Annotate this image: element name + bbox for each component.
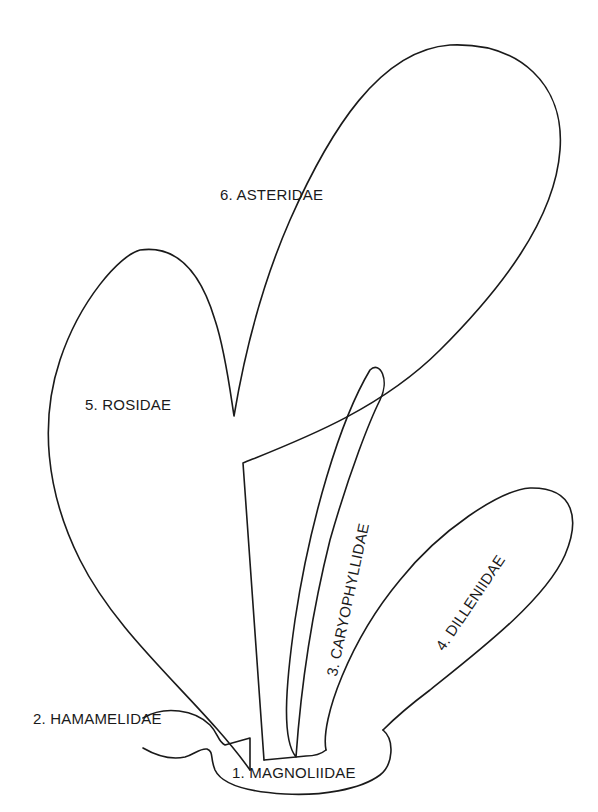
label-dilleniidae: 4. DILLENIIDAE (432, 552, 508, 654)
label-asteridae: 6. ASTERIDAE (220, 186, 323, 203)
subclass-diagram: 6. ASTERIDAE 5. ROSIDAE 3. CARYOPHYLLIDA… (0, 0, 598, 812)
magnoliidae-outline (143, 730, 391, 794)
rosidae-base-connector (296, 750, 326, 757)
caryophyllidae-outline (264, 367, 384, 760)
label-hamamelidae: 2. HAMAMELIDAE (33, 710, 162, 727)
label-magnoliidae: 1. MAGNOLIIDAE (232, 764, 356, 781)
label-caryophyllidae: 3. CARYOPHYLLIDAE (323, 522, 372, 678)
label-rosidae: 5. ROSIDAE (85, 396, 171, 413)
